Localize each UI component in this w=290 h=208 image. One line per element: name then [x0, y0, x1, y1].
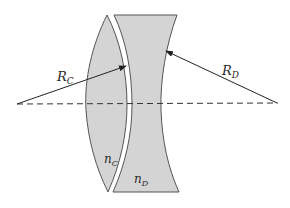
optical-axis	[17, 103, 278, 104]
label-radius-d: RD	[221, 63, 239, 80]
label-radius-c: RC	[56, 69, 74, 86]
lens-diagram: RC RD nC nD	[0, 0, 290, 208]
